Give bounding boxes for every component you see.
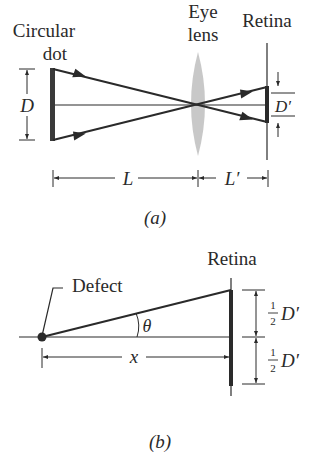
angle-arc <box>136 313 139 337</box>
dimension-D: D <box>19 69 35 140</box>
half-denominator: 2 <box>270 362 276 374</box>
optics-diagram: Circular dot Eye lens Retina D <box>0 0 317 469</box>
ray-arrow-icon <box>72 129 87 141</box>
angle-theta-label: θ <box>143 316 152 336</box>
dimension-D-prime-label: D′ <box>274 97 291 116</box>
retina-label-b: Retina <box>207 248 257 269</box>
dimension-D-prime: D′ <box>271 72 295 137</box>
retina-bar-b <box>229 290 233 386</box>
panel-b: Retina Defect θ x 1 <box>19 248 300 453</box>
dimension-L: L L′ <box>53 168 268 189</box>
half-D-prime-label: D′ <box>280 350 300 371</box>
half-D-prime-label: D′ <box>280 303 300 324</box>
caption-b: (b) <box>149 431 171 453</box>
defect-leader-line <box>42 288 63 336</box>
half-denominator: 2 <box>270 315 276 327</box>
retina-label-a: Retina <box>242 10 292 31</box>
circular-dot-label: Circular <box>13 20 76 41</box>
dimension-L-label: L <box>122 168 134 189</box>
half-numerator: 1 <box>270 346 276 358</box>
circular-dot-label-2: dot <box>43 43 68 64</box>
defect-dot <box>38 333 47 342</box>
caption-a: (a) <box>144 207 166 229</box>
dimension-x: x <box>42 346 229 368</box>
dimension-D-label: D <box>19 95 34 116</box>
dimension-x-label: x <box>129 346 139 367</box>
ray-arrow-icon <box>239 87 254 99</box>
eye-lens-label: Eye <box>188 1 218 22</box>
object-bar <box>50 68 55 141</box>
eye-lens-label-2: lens <box>188 24 219 45</box>
defect-label: Defect <box>72 275 123 296</box>
half-numerator: 1 <box>270 299 276 311</box>
dimension-half-D-prime: 1 2 D′ 1 2 D′ <box>242 290 300 384</box>
panel-a: Circular dot Eye lens Retina D <box>13 1 295 229</box>
image-bar <box>265 86 269 123</box>
dimension-L-prime-label: L′ <box>224 168 241 189</box>
ray-arrow-icon <box>72 68 87 80</box>
